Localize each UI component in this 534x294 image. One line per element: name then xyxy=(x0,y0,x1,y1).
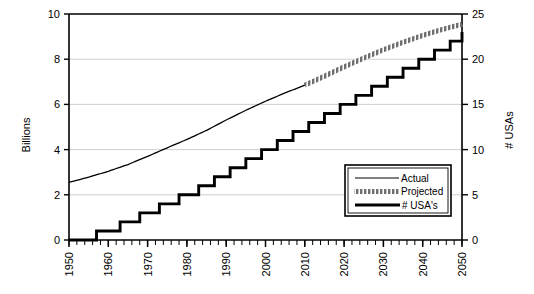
legend: Actual Projected # USA's xyxy=(345,165,451,216)
x-tick-label: 2000 xyxy=(260,252,272,276)
y2-tick-label: 5 xyxy=(472,189,478,201)
x-tick-label: 1970 xyxy=(142,252,154,276)
x-tick-label: 2010 xyxy=(299,252,311,276)
population-projection-chart: 0246810 0510152025 195019601970198019902… xyxy=(0,0,534,294)
y2-tick-label: 10 xyxy=(472,144,484,156)
chart-canvas: 0246810 0510152025 195019601970198019902… xyxy=(0,0,534,294)
legend-label-actual: Actual xyxy=(401,173,429,184)
y-axis-left-title: Billions xyxy=(20,117,32,152)
x-tick-label: 1950 xyxy=(63,252,75,276)
y-axis-right-ticks: 0510152025 xyxy=(462,8,484,246)
x-tick-label: 2050 xyxy=(456,252,468,276)
series-line-projected xyxy=(305,24,462,85)
legend-label-projected: Projected xyxy=(401,186,443,197)
x-axis-ticks: 1950196019701980199020002010202020302040… xyxy=(63,240,468,276)
legend-label-usas: # USA's xyxy=(402,200,438,211)
y-tick-label: 2 xyxy=(54,189,60,201)
y-axis-left-ticks: 0246810 xyxy=(48,8,69,246)
axis-titles: Billions # USAs xyxy=(20,111,515,153)
y2-tick-label: 20 xyxy=(472,53,484,65)
y2-tick-label: 25 xyxy=(472,8,484,20)
x-tick-label: 2020 xyxy=(338,252,350,276)
y-tick-label: 4 xyxy=(54,144,60,156)
x-tick-label: 1990 xyxy=(220,252,232,276)
y2-tick-label: 0 xyxy=(472,234,478,246)
y-tick-label: 0 xyxy=(54,234,60,246)
y-tick-label: 6 xyxy=(54,98,60,110)
y2-tick-label: 15 xyxy=(472,98,484,110)
series-line-actual xyxy=(69,85,305,182)
x-tick-label: 1980 xyxy=(181,252,193,276)
y-tick-label: 10 xyxy=(48,8,60,20)
y-tick-label: 8 xyxy=(54,53,60,65)
y-axis-right-title: # USAs xyxy=(503,111,515,149)
x-tick-label: 1960 xyxy=(102,252,114,276)
x-tick-label: 2040 xyxy=(417,252,429,276)
x-tick-label: 2030 xyxy=(377,252,389,276)
